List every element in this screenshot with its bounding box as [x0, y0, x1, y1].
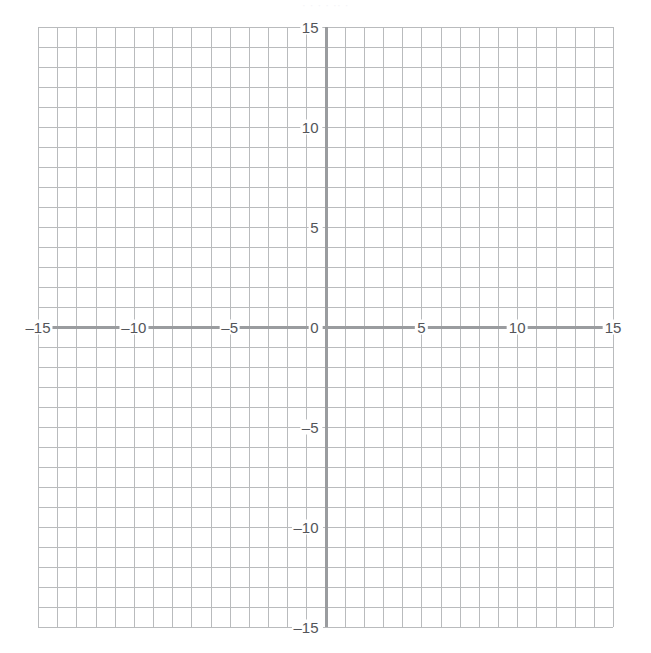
- plot-area: –15–10–551015–15–10–5510150: [38, 27, 613, 627]
- axis-lines: [38, 27, 613, 627]
- coordinate-grid-figure: · · · · ·· · –15–10–551015–15–10–5510150: [0, 0, 651, 653]
- top-clipped-text: · · · · ·· ·: [0, 0, 651, 10]
